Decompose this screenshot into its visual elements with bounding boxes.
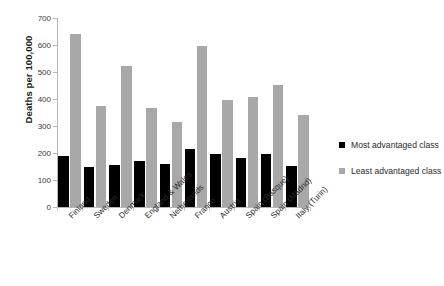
legend-label-least-advantaged: Least advantaged class <box>351 166 441 176</box>
bar-least-advantaged <box>222 100 233 207</box>
y-axis-tick-label: 300 <box>38 122 51 131</box>
x-axis-tick <box>57 207 58 211</box>
bar-group <box>236 18 259 207</box>
y-axis-tick <box>53 72 57 73</box>
bar-group <box>84 18 107 207</box>
y-axis-tick <box>53 180 57 181</box>
y-axis-tick <box>53 18 57 19</box>
bar-group <box>109 18 132 207</box>
y-axis-tick <box>53 99 57 100</box>
legend-item: Least advantaged class <box>339 166 444 177</box>
y-axis-tick <box>53 45 57 46</box>
bar-group <box>210 18 233 207</box>
y-axis-tick <box>53 153 57 154</box>
legend-swatch-most-advantaged <box>339 142 345 148</box>
y-axis-tick-label: 600 <box>38 41 51 50</box>
y-axis-tick-label: 400 <box>38 95 51 104</box>
legend-item: Most advantaged class <box>339 140 444 151</box>
y-axis-tick-label: 200 <box>38 149 51 158</box>
y-axis-tick-label: 0 <box>47 203 51 212</box>
y-axis-tick-label: 100 <box>38 176 51 185</box>
y-axis-tick-label: 700 <box>38 14 51 23</box>
y-axis-tick <box>53 126 57 127</box>
bar-least-advantaged <box>70 34 81 207</box>
legend-swatch-least-advantaged <box>339 168 345 174</box>
bar-group <box>134 18 157 207</box>
bar-least-advantaged <box>248 97 259 207</box>
legend-label-most-advantaged: Most advantaged class <box>351 140 439 150</box>
bar-most-advantaged <box>58 156 69 207</box>
bar-chart: Deaths per 100,000 010020030040050060070… <box>0 0 444 286</box>
y-axis-title: Deaths per 100,000 <box>23 0 34 160</box>
y-axis-tick-label: 500 <box>38 68 51 77</box>
bar-least-advantaged <box>96 106 107 207</box>
legend: Most advantaged class Least advantaged c… <box>339 140 444 192</box>
bar-group <box>58 18 81 207</box>
bar-least-advantaged <box>146 108 157 207</box>
bar-least-advantaged <box>121 66 132 207</box>
